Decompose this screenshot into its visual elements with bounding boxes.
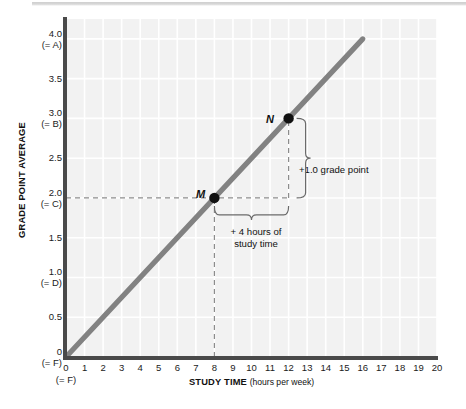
- x-tick-value: 3: [119, 362, 124, 373]
- x-axis-title: STUDY TIME (hours per week): [66, 377, 437, 387]
- top-edge-band: [32, 2, 466, 6]
- y-tick-value: 1.5: [49, 232, 62, 243]
- x-tick-value: 11: [265, 362, 275, 373]
- y-tick-label: 3.5: [4, 73, 62, 84]
- chart-data-layer: [66, 19, 437, 357]
- y-axis-line: [63, 17, 67, 360]
- y-tick-value: 4.0: [49, 28, 62, 39]
- point-label-m: M: [196, 188, 205, 200]
- x-tick-value: 9: [230, 362, 235, 373]
- y-tick-value: 2.0: [49, 187, 62, 198]
- x-tick-label: 20: [425, 362, 449, 373]
- x-tick-value: 1: [82, 362, 87, 373]
- point-label-n: N: [266, 113, 274, 125]
- y-axis-title: GRADE POINT AVERAGE: [17, 95, 27, 265]
- annotation-study-time: + 4 hours of study time: [208, 226, 304, 250]
- x-tick-value: 0: [63, 362, 68, 373]
- x-tick-value: 10: [246, 362, 257, 373]
- x-tick-value: 5: [156, 362, 161, 373]
- y-tick-value: 3.5: [49, 73, 62, 84]
- chart-figure: 4.0(= A)3.53.0(= B)2.52.0(= C)1.51.0(= D…: [0, 0, 466, 409]
- x-tick-value: 15: [339, 362, 350, 373]
- x-tick-value: 13: [302, 362, 313, 373]
- y-tick-value: 0.5: [49, 311, 62, 322]
- x-tick-value: 20: [432, 362, 443, 373]
- y-tick-grade: (= B): [4, 118, 62, 129]
- y-tick-value: 1.0: [49, 266, 62, 277]
- x-axis-title-unit: (hours per week): [250, 377, 314, 387]
- y-tick-label: 1.0(= D): [4, 266, 62, 288]
- x-tick-value: 16: [358, 362, 369, 373]
- annotation-study-time-line1: + 4 hours of: [231, 226, 282, 237]
- plot-area: [66, 19, 437, 357]
- y-tick-label: 4.0(= A): [4, 28, 62, 50]
- x-tick-value: 19: [413, 362, 424, 373]
- y-tick-label: 2.5: [4, 152, 62, 163]
- y-tick-label: 0.5: [4, 311, 62, 322]
- x-tick-value: 17: [376, 362, 387, 373]
- y-axis-ticks: 4.0(= A)3.53.0(= B)2.52.0(= C)1.51.0(= D…: [0, 0, 62, 409]
- y-tick-value: 0: [57, 346, 62, 357]
- y-tick-grade: (= D): [4, 277, 62, 288]
- x-tick-value: 8: [212, 362, 217, 373]
- x-axis-title-main: STUDY TIME: [189, 377, 247, 387]
- annotation-grade-point: +1.0 grade point: [299, 164, 369, 175]
- y-tick-grade: (= C): [4, 198, 62, 209]
- y-tick-grade: (= A): [4, 39, 62, 50]
- y-tick-label: 2.0(= C): [4, 187, 62, 209]
- y-tick-label: 1.5: [4, 232, 62, 243]
- x-tick-value: 12: [283, 362, 294, 373]
- x-tick-value: 18: [395, 362, 406, 373]
- annotation-study-time-line2: study time: [234, 238, 278, 249]
- x-tick-value: 6: [175, 362, 180, 373]
- y-tick-value: 3.0: [49, 107, 62, 118]
- x-axis-line: [63, 356, 438, 360]
- x-tick-value: 4: [138, 362, 143, 373]
- y-tick-label: 3.0(= B): [4, 107, 62, 129]
- x-tick-value: 14: [320, 362, 331, 373]
- x-tick-value: 2: [100, 362, 105, 373]
- y-tick-value: 2.5: [49, 152, 62, 163]
- x-tick-value: 7: [193, 362, 198, 373]
